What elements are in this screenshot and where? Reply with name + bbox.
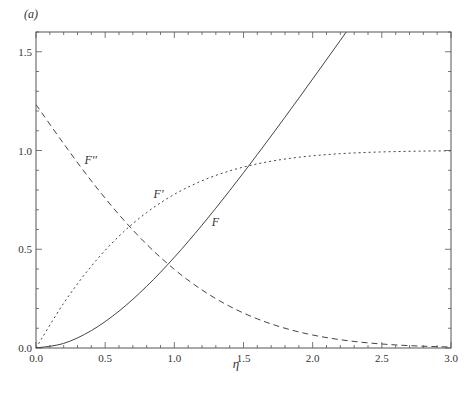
curve-fpp [36, 105, 451, 347]
curve-label-f: F [211, 215, 220, 229]
y-tick-labels: 0.00.51.01.5 [18, 46, 32, 354]
y-tick-label: 0.5 [18, 243, 32, 255]
curve-labels: FF'F'' [83, 153, 219, 228]
x-tick-label: 2.0 [306, 352, 320, 364]
x-axis-label: η [233, 356, 239, 371]
chart: (a) 0.00.51.01.52.02.53.0 0.00.51.01.5 F… [0, 0, 474, 393]
y-tick-label: 1.0 [18, 145, 32, 157]
curve-label-fp: F' [153, 187, 164, 201]
curve-label-fpp: F'' [83, 153, 97, 167]
x-tick-labels: 0.00.51.01.52.02.53.0 [29, 352, 458, 364]
curves [36, 0, 451, 348]
x-tick-label: 3.0 [444, 352, 458, 364]
x-tick-label: 1.0 [167, 352, 181, 364]
x-tick-label: 2.5 [375, 352, 389, 364]
y-tick-label: 1.5 [18, 46, 32, 58]
panel-label: (a) [24, 7, 38, 21]
x-tick-label: 0.5 [98, 352, 112, 364]
y-tick-label: 0.0 [18, 342, 32, 354]
curve-fp [36, 151, 451, 348]
curve-f [36, 0, 451, 348]
